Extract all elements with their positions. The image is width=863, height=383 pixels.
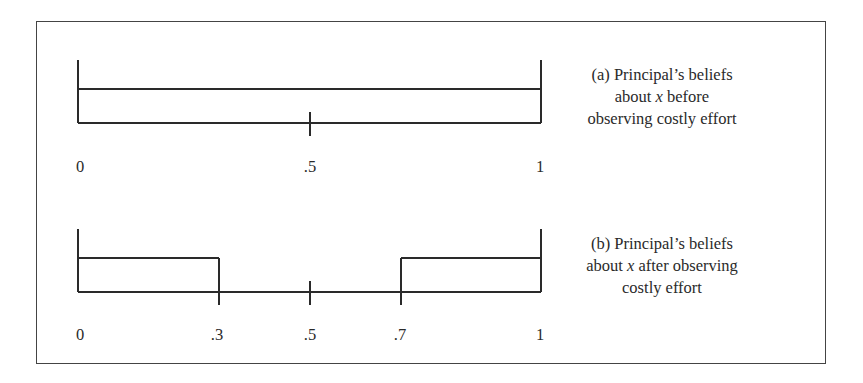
- panel-b-tick-label-0.7: .7: [394, 325, 406, 345]
- caption-variable-x: x: [656, 87, 663, 106]
- caption-text: about: [586, 256, 627, 275]
- panel-b-caption-line2: about x after observing: [562, 255, 762, 277]
- panel-a-plot: [78, 60, 541, 136]
- panel-a-caption-line2: about x before: [562, 86, 762, 108]
- panel-a-caption-line3: observing costly effort: [562, 108, 762, 130]
- panel-a-tick-label-1: 1: [536, 157, 544, 177]
- panel-a-caption: (a) Principal’s beliefs about x before o…: [562, 64, 762, 130]
- panel-a-tick-label-0: 0: [76, 157, 84, 177]
- panel-b-tick-label-1: 1: [536, 325, 544, 345]
- panel-b-caption-line1: (b) Principal’s beliefs: [562, 233, 762, 255]
- panel-b-plot: [78, 229, 541, 305]
- panel-a-tick-label-0.5: .5: [304, 157, 316, 177]
- figure-canvas: [0, 0, 863, 383]
- caption-text: after observing: [634, 256, 738, 275]
- panel-b-caption: (b) Principal’s beliefs about x after ob…: [562, 233, 762, 299]
- panel-a-caption-line1: (a) Principal’s beliefs: [562, 64, 762, 86]
- caption-text: about: [615, 87, 656, 106]
- caption-text: before: [663, 87, 709, 106]
- panel-b-caption-line3: costly effort: [562, 277, 762, 299]
- panel-b-tick-label-0: 0: [76, 325, 84, 345]
- panel-b-tick-label-0.3: .3: [211, 325, 223, 345]
- panel-b-tick-label-0.5: .5: [304, 325, 316, 345]
